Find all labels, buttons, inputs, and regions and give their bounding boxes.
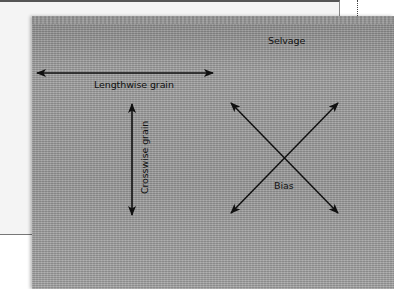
crosswise-grain-label: Crosswise grain xyxy=(139,116,150,200)
lengthwise-grain-label: Lengthwise grain xyxy=(94,79,174,90)
grain-arrows xyxy=(0,0,394,289)
bias-label: Bias xyxy=(274,180,294,191)
selvage-label: Selvage xyxy=(268,35,305,46)
